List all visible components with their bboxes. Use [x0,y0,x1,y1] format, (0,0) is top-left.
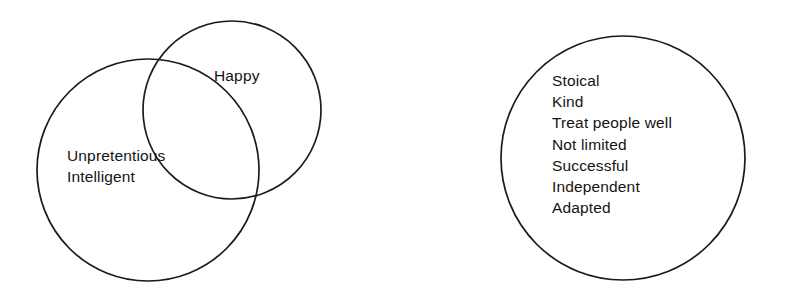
right-trait-line-1: Stoical [552,70,672,91]
happy-label: Happy [214,66,260,87]
happy-label-line: Happy [214,66,260,87]
diagram-canvas: Happy Unpretentious Intelligent Stoical … [0,0,792,307]
right-trait-line-4: Not limited [552,134,672,155]
right-trait-line-5: Successful [552,155,672,176]
right-trait-line-7: Adapted [552,197,672,218]
right-trait-line-6: Independent [552,176,672,197]
left-trait-line-1: Unpretentious [67,146,165,167]
left-trait-line-2: Intelligent [67,167,165,188]
left-circle-trait-list: Unpretentious Intelligent [67,146,165,187]
happy-circle[interactable] [143,21,321,199]
right-trait-line-2: Kind [552,91,672,112]
right-circle-trait-list: Stoical Kind Treat people well Not limit… [552,70,672,218]
right-trait-line-3: Treat people well [552,112,672,133]
